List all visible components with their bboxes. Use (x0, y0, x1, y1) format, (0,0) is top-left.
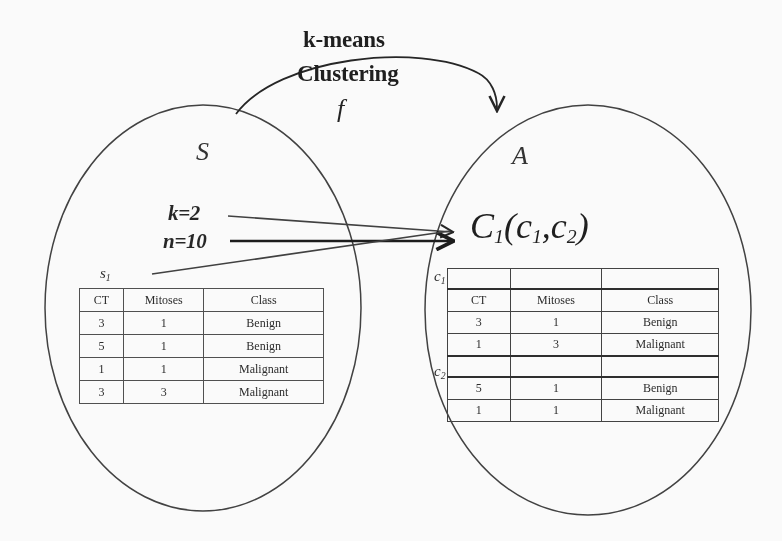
table-row: 5 1 Benign (80, 335, 324, 358)
arc-label-line1: k-means (303, 28, 385, 51)
cell-mitoses: 1 (510, 312, 602, 334)
header-cell-mitoses: Mitoses (510, 289, 602, 312)
cluster2-band-cell-1 (448, 356, 511, 377)
cell-class: Benign (602, 312, 719, 334)
cell-ct: 1 (448, 400, 511, 422)
subset-tag-s1: s1 (100, 265, 111, 283)
cluster-table-header-row: CT Mitoses Class (448, 289, 719, 312)
set-label-source: S (196, 139, 209, 165)
cluster-tag-c1: c1 (434, 268, 446, 286)
formula-comma: , (542, 206, 551, 246)
cluster-tag-c2-letter: c (434, 363, 441, 379)
cluster2-band-cell-2 (510, 356, 602, 377)
cell-mitoses: 1 (124, 312, 204, 335)
table-row: 3 1 Benign (448, 312, 719, 334)
formula-close-paren: ) (577, 206, 589, 246)
cell-mitoses: 1 (124, 358, 204, 381)
parameter-label-n: n=10 (163, 231, 206, 252)
cluster-tag-c2-index: 2 (441, 370, 446, 381)
table-row: 1 1 Malignant (80, 358, 324, 381)
header-cell-class: Class (204, 289, 324, 312)
cell-class: Malignant (602, 334, 719, 357)
cell-class: Benign (602, 377, 719, 400)
result-formula: C1(c1,c2) (470, 205, 589, 248)
cell-ct: 3 (80, 381, 124, 404)
cell-ct: 5 (448, 377, 511, 400)
table-row: 1 3 Malignant (448, 334, 719, 357)
formula-arg2: c (551, 206, 567, 246)
formula-arg1-subscript: 1 (532, 225, 542, 247)
formula-main-subscript: 1 (494, 225, 504, 247)
table-row: 5 1 Benign (448, 377, 719, 400)
cluster1-band-cell-1 (448, 269, 511, 290)
cluster2-band-row (448, 356, 719, 377)
cell-ct: 3 (448, 312, 511, 334)
diagram-canvas: k-means Clustering f S A k=2 n=10 C1(c1,… (0, 0, 782, 541)
cell-ct: 1 (80, 358, 124, 381)
header-cell-ct: CT (448, 289, 511, 312)
header-cell-mitoses: Mitoses (124, 289, 204, 312)
cell-ct: 5 (80, 335, 124, 358)
formula-arg1: c (516, 206, 532, 246)
cell-ct: 3 (80, 312, 124, 335)
cell-class: Benign (204, 312, 324, 335)
parameter-label-k: k=2 (168, 203, 200, 224)
cluster-tag-c1-letter: c (434, 268, 441, 284)
header-cell-ct: CT (80, 289, 124, 312)
header-cell-class: Class (602, 289, 719, 312)
cluster2-band-cell-3 (602, 356, 719, 377)
cell-class: Benign (204, 335, 324, 358)
source-data-table: CT Mitoses Class 3 1 Benign 5 1 Benign 1… (79, 288, 324, 404)
cluster1-band-row (448, 269, 719, 290)
function-symbol-label: f (337, 96, 344, 122)
cell-ct: 1 (448, 334, 511, 357)
cell-class: Malignant (204, 358, 324, 381)
arrow-k-to-formula (228, 216, 452, 232)
cell-mitoses: 1 (510, 377, 602, 400)
subset-tag-index: 1 (106, 272, 111, 283)
set-label-target: A (512, 143, 528, 169)
cell-mitoses: 3 (124, 381, 204, 404)
cell-mitoses: 1 (124, 335, 204, 358)
cluster-tag-c1-index: 1 (441, 275, 446, 286)
cluster-data-table: CT Mitoses Class 3 1 Benign 1 3 Malignan… (447, 268, 719, 422)
cell-mitoses: 1 (510, 400, 602, 422)
table-row: 1 1 Malignant (448, 400, 719, 422)
table-row: 3 1 Benign (80, 312, 324, 335)
cell-class: Malignant (602, 400, 719, 422)
table-row: 3 3 Malignant (80, 381, 324, 404)
formula-open-paren: ( (504, 206, 516, 246)
cell-class: Malignant (204, 381, 324, 404)
arc-label-line2: Clustering (297, 62, 399, 85)
formula-main: C (470, 206, 494, 246)
cluster1-band-cell-2 (510, 269, 602, 290)
cluster1-band-cell-3 (602, 269, 719, 290)
cell-mitoses: 3 (510, 334, 602, 357)
table-header-row: CT Mitoses Class (80, 289, 324, 312)
cluster-tag-c2: c2 (434, 363, 446, 381)
formula-arg2-subscript: 2 (567, 225, 577, 247)
